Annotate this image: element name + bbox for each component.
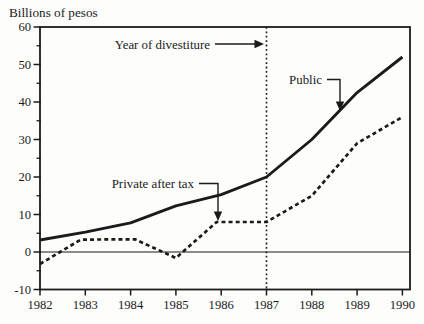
x-tick-label: 1983: [73, 298, 98, 312]
x-tick-label: 1988: [299, 298, 324, 312]
x-tick-label: 1987: [254, 298, 279, 312]
private-after-tax-line: [40, 117, 402, 264]
x-tick-label: 1986: [209, 298, 234, 312]
plot-border: [40, 27, 410, 290]
private-after-tax-arrowhead-icon: [214, 212, 222, 222]
y-tick-label: 20: [18, 170, 31, 184]
x-tick-label: 1982: [27, 298, 52, 312]
x-tick-label: 1989: [345, 298, 370, 312]
x-tick-label: 1984: [118, 298, 144, 312]
y-tick-label: 60: [18, 20, 31, 34]
year-of-divestiture-arrowhead-icon: [255, 40, 265, 48]
y-tick-label: 0: [25, 245, 31, 259]
line-chart: Billions of pesos 6050403020100-10198219…: [0, 0, 424, 324]
plot-area: 6050403020100-10198219831984198519861987…: [14, 20, 415, 311]
y-tick-label: 40: [18, 95, 31, 109]
x-tick-label: 1985: [163, 298, 188, 312]
private-after-tax-annotation-label: Private after tax: [112, 177, 195, 191]
public-annotation-label: Public: [289, 73, 322, 87]
y-tick-label: -10: [14, 283, 31, 297]
chart-figure: Billions of pesos 6050403020100-10198219…: [0, 0, 424, 324]
x-tick-label: 1990: [390, 298, 415, 312]
public-annotation-line: [327, 80, 340, 103]
y-tick-label: 50: [18, 58, 31, 72]
y-tick-label: 10: [18, 208, 31, 222]
y-tick-label: 30: [18, 133, 31, 147]
y-axis-unit-label: Billions of pesos: [9, 5, 98, 20]
year-of-divestiture-annotation-label: Year of divestiture: [115, 38, 211, 52]
